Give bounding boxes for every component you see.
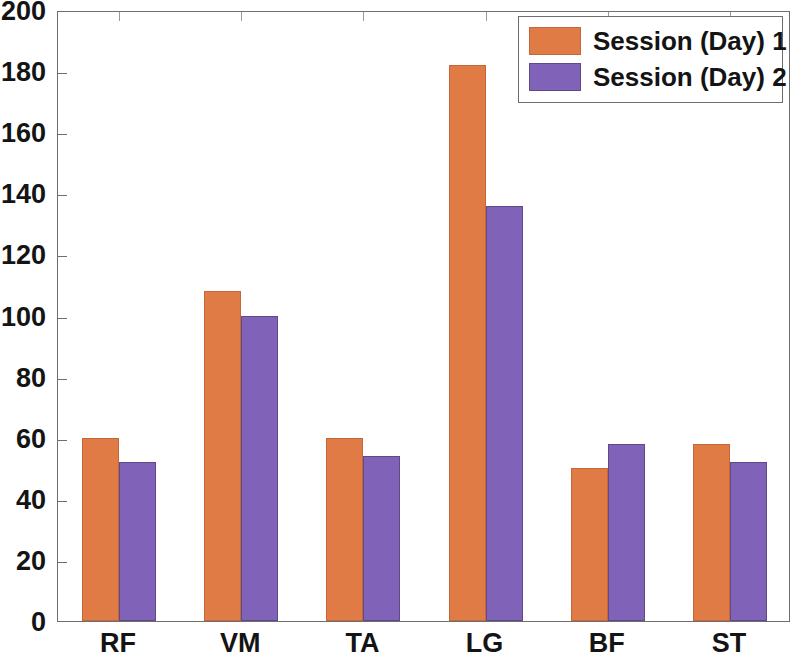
chart-legend: Session (Day) 1 Session (Day) 2 [518, 16, 783, 103]
y-axis-tick-label: 160 [0, 118, 46, 149]
legend-item-session-day-1: Session (Day) 1 [529, 23, 772, 59]
y-axis-tick-label: 20 [0, 545, 46, 576]
bar-lg-series-2 [486, 206, 523, 621]
y-axis-tick-label: 80 [0, 362, 46, 393]
bar-ta-series-2 [363, 456, 400, 621]
legend-item-session-day-2: Session (Day) 2 [529, 59, 772, 95]
bar-ta-series-1 [326, 438, 363, 621]
bar-chart-figure: 020406080100120140160180200 RFVMTALGBFST… [0, 0, 800, 666]
legend-label-session-day-2: Session (Day) 2 [593, 62, 787, 93]
y-axis-tick-label: 180 [0, 57, 46, 88]
y-axis-tick-label: 60 [0, 423, 46, 454]
y-axis-tick-label: 140 [0, 179, 46, 210]
x-axis-tick-label: RF [100, 628, 136, 659]
y-axis-tick-label: 200 [0, 0, 46, 27]
bar-st-series-1 [693, 444, 730, 621]
x-axis-tick-label: LG [466, 628, 504, 659]
bar-vm-series-2 [241, 316, 278, 622]
y-axis-tick-label: 0 [0, 607, 46, 638]
bar-rf-series-1 [82, 438, 119, 621]
bar-lg-series-1 [449, 65, 486, 621]
y-axis-tick-label: 120 [0, 240, 46, 271]
legend-label-session-day-1: Session (Day) 1 [593, 26, 787, 57]
bars-layer [58, 12, 789, 621]
x-axis-tick-label: VM [220, 628, 261, 659]
bar-bf-series-1 [571, 468, 608, 621]
legend-swatch-session-day-2 [529, 63, 581, 91]
x-axis-tick-label: ST [712, 628, 747, 659]
legend-swatch-session-day-1 [529, 27, 581, 55]
x-axis-tick-label: BF [589, 628, 625, 659]
y-axis-tick-label: 40 [0, 484, 46, 515]
y-axis-tick-label: 100 [0, 301, 46, 332]
bar-rf-series-2 [119, 462, 156, 621]
bar-st-series-2 [730, 462, 767, 621]
bar-vm-series-1 [204, 291, 241, 621]
bar-bf-series-2 [608, 444, 645, 621]
x-axis-tick-label: TA [345, 628, 379, 659]
